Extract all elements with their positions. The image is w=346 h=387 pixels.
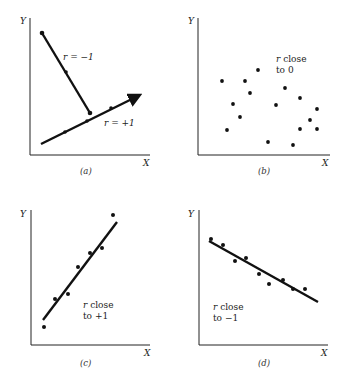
annotation-line1: r close — [83, 300, 113, 310]
caption: (c) — [80, 358, 91, 368]
fit-line — [209, 241, 318, 302]
panel-b: Y X (b) r close to 0 — [188, 16, 330, 176]
panel-d: Y X (d) r close to −1 — [188, 209, 328, 368]
caption: (a) — [80, 166, 92, 176]
y-label: Y — [20, 209, 27, 219]
scatter-points — [220, 68, 319, 147]
annotation-r-neg1: r = −1 — [63, 52, 94, 62]
caption: (d) — [258, 358, 270, 368]
y-label: Y — [20, 16, 27, 26]
x-label: X — [142, 158, 150, 168]
scatter-points — [209, 237, 307, 291]
annotation-r-pos1: r = +1 — [104, 118, 135, 128]
caption: (b) — [258, 166, 270, 176]
annotation-line2: to +1 — [83, 311, 108, 321]
panel-c: Y X (c) r close to +1 — [20, 209, 151, 368]
annotation-line2: to 0 — [276, 65, 294, 75]
annotation-line2: to −1 — [213, 313, 238, 323]
y-label: Y — [188, 16, 195, 26]
x-label: X — [143, 348, 151, 358]
y-label: Y — [188, 209, 195, 219]
annotation-line1: r close — [213, 302, 243, 312]
annotation-line1: r close — [276, 54, 306, 64]
x-label: X — [321, 158, 329, 168]
panel-a: Y X (a) r = −1 r = +1 — [20, 16, 150, 176]
x-label: X — [320, 348, 328, 358]
correlation-figure: Y X (a) r = −1 r = +1 Y X (b) r close — [0, 0, 346, 387]
